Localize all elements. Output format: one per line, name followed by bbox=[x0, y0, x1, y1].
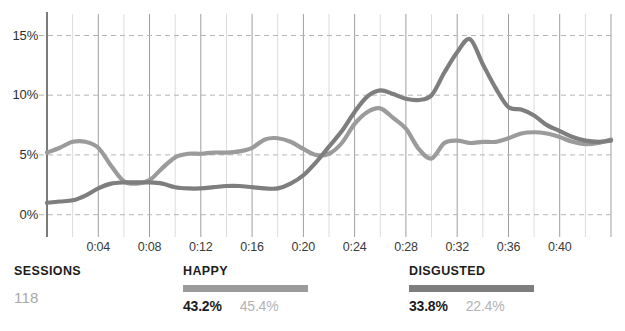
sessions-value: 118 bbox=[14, 289, 164, 306]
legend-secondary-value-disgusted: 22.4% bbox=[466, 298, 505, 314]
y-tick-label: 5% bbox=[0, 147, 38, 162]
emotion-timeline-chart: 0%5%10%15% 0:040:080:120:160:200:240:280… bbox=[0, 0, 625, 331]
x-tick-label: 0:32 bbox=[435, 240, 479, 254]
sessions-label: SESSIONS bbox=[14, 264, 164, 278]
x-tick-label: 0:28 bbox=[384, 240, 428, 254]
legend-values-disgusted: 33.8% 22.4% bbox=[409, 298, 624, 314]
legend-label-disgusted: DISGUSTED bbox=[409, 264, 624, 278]
y-tick-label: 0% bbox=[0, 207, 38, 222]
legend-primary-value-disgusted: 33.8% bbox=[409, 298, 448, 314]
chart-footer: SESSIONS 118 HAPPY 43.2% 45.4% DISGUSTED… bbox=[0, 258, 625, 331]
legend-color-swatch-disgusted bbox=[409, 285, 534, 292]
legend-secondary-value-happy: 45.4% bbox=[240, 298, 279, 314]
legend-label-happy: HAPPY bbox=[183, 264, 398, 278]
x-tick-label: 0:36 bbox=[486, 240, 530, 254]
legend-item-disgusted[interactable]: DISGUSTED 33.8% 22.4% bbox=[409, 264, 624, 314]
x-tick-label: 0:16 bbox=[230, 240, 274, 254]
x-tick-label: 0:08 bbox=[128, 240, 172, 254]
x-tick-label: 0:12 bbox=[179, 240, 223, 254]
sessions-block: SESSIONS 118 bbox=[14, 264, 164, 306]
x-tick-label: 0:20 bbox=[281, 240, 325, 254]
legend-color-swatch-happy bbox=[183, 285, 308, 292]
legend-values-happy: 43.2% 45.4% bbox=[183, 298, 398, 314]
x-tick-label: 0:04 bbox=[76, 240, 120, 254]
legend-item-happy[interactable]: HAPPY 43.2% 45.4% bbox=[183, 264, 398, 314]
y-tick-label: 10% bbox=[0, 87, 38, 102]
legend-primary-value-happy: 43.2% bbox=[183, 298, 222, 314]
x-tick-label: 0:24 bbox=[333, 240, 377, 254]
x-tick-label: 0:40 bbox=[538, 240, 582, 254]
y-tick-label: 15% bbox=[0, 28, 38, 43]
